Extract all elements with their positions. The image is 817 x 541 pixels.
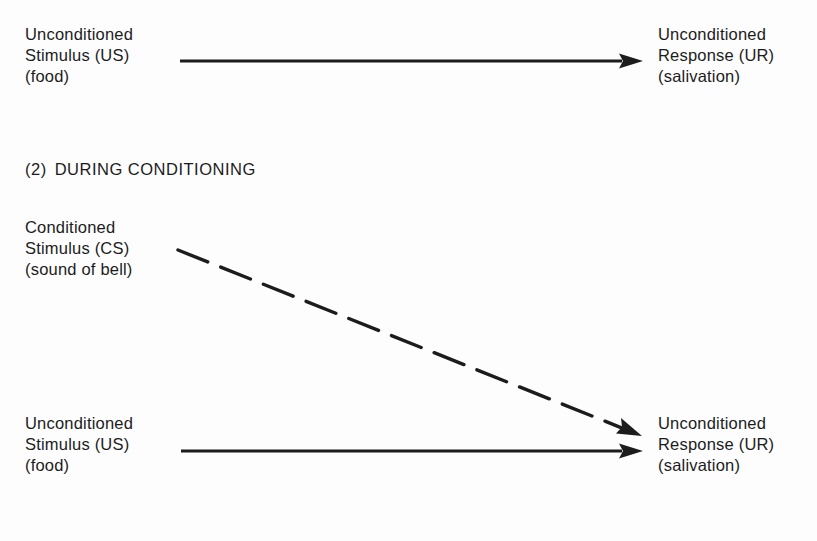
solid-arrow-bottom bbox=[181, 444, 643, 459]
solid-arrow-top bbox=[180, 54, 643, 69]
arrowhead-icon bbox=[619, 444, 643, 459]
arrowhead-icon bbox=[619, 54, 643, 69]
arrows-layer bbox=[0, 0, 817, 541]
dashed-arrow-cs-to-ur bbox=[178, 250, 642, 436]
dashed-arrow-shaft bbox=[178, 250, 624, 429]
